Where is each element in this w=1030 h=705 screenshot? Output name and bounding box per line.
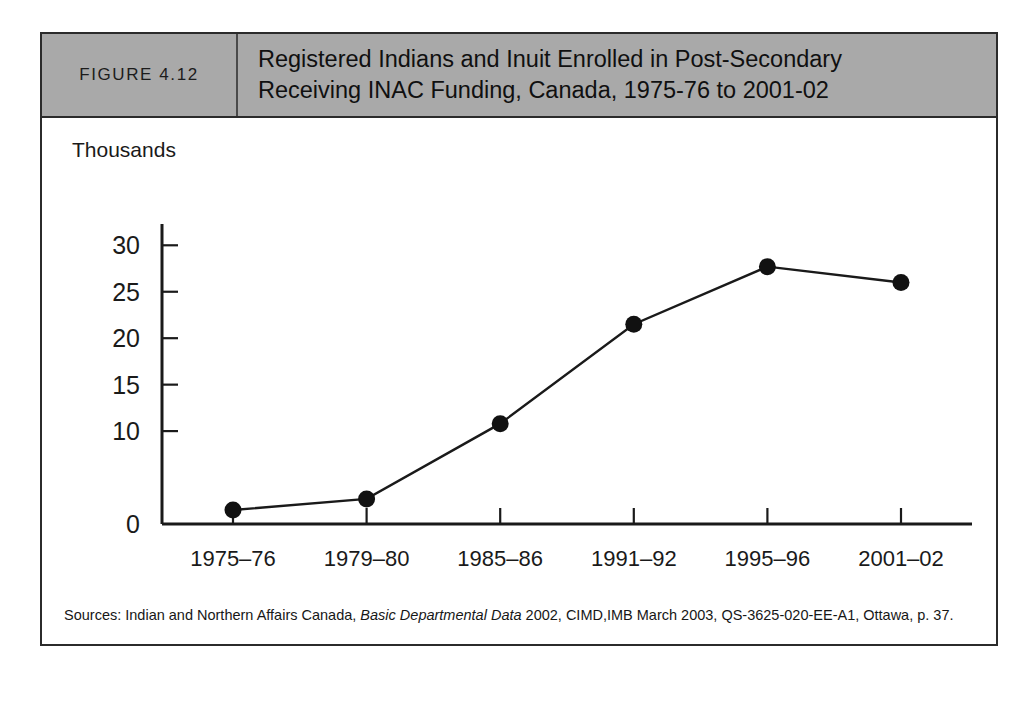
- source-italic-title: Basic Departmental Data: [360, 607, 521, 623]
- series-line: [233, 267, 901, 510]
- x-tick-label: 1991–92: [591, 546, 677, 571]
- x-tick-label: 2001–02: [858, 546, 944, 571]
- x-tick-label: 1985–86: [457, 546, 543, 571]
- x-tick-label: 1979–80: [324, 546, 410, 571]
- y-tick-label: 10: [112, 417, 140, 445]
- figure-container: FIGURE 4.12 Registered Indians and Inuit…: [40, 32, 998, 646]
- y-tick-label: 15: [112, 371, 140, 399]
- source-note: Sources: Indian and Northern Affairs Can…: [42, 605, 996, 644]
- data-point-marker: [225, 502, 242, 519]
- figure-title-cell: Registered Indians and Inuit Enrolled in…: [238, 34, 996, 116]
- x-tick-label: 1995–96: [725, 546, 811, 571]
- figure-header: FIGURE 4.12 Registered Indians and Inuit…: [42, 34, 996, 118]
- figure-number-label: FIGURE 4.12: [79, 65, 199, 85]
- data-point-marker: [893, 274, 910, 291]
- figure-title-line-2: Receiving INAC Funding, Canada, 1975-76 …: [258, 75, 996, 106]
- y-tick-label: 20: [112, 324, 140, 352]
- plot-region: Thousands 302520151001975–761979–801985–…: [42, 118, 996, 586]
- line-chart: 302520151001975–761979–801985–861991–921…: [42, 118, 996, 586]
- x-tick-label: 1975–76: [190, 546, 276, 571]
- source-suffix: 2002, CIMD,IMB March 2003, QS-3625-020-E…: [522, 607, 954, 623]
- data-point-marker: [492, 415, 509, 432]
- figure-number-cell: FIGURE 4.12: [42, 34, 238, 116]
- y-tick-label: 30: [112, 231, 140, 259]
- source-prefix: Sources: Indian and Northern Affairs Can…: [64, 607, 360, 623]
- figure-title-line-1: Registered Indians and Inuit Enrolled in…: [258, 44, 996, 75]
- y-tick-label: 25: [112, 278, 140, 306]
- y-tick-label: 0: [126, 510, 140, 538]
- data-point-marker: [358, 490, 375, 507]
- data-point-marker: [625, 316, 642, 333]
- data-point-marker: [759, 258, 776, 275]
